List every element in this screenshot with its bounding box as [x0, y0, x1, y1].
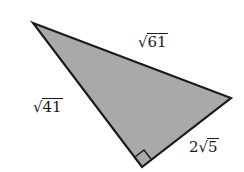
right-leg-label: 2√5 — [189, 138, 219, 155]
hypotenuse-label: √61 — [138, 33, 168, 50]
right-leg-radicand: 5 — [207, 138, 219, 155]
left-leg-radicand: 41 — [42, 98, 63, 115]
left-leg-label: √41 — [33, 98, 63, 115]
hypotenuse-radicand: 61 — [147, 33, 168, 50]
right-leg-coefficient: 2 — [189, 138, 199, 156]
